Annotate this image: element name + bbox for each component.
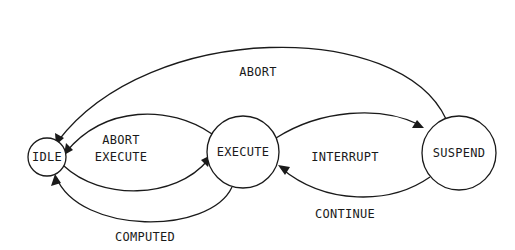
edge-execute-mid bbox=[64, 160, 208, 191]
state-suspend-label: SUSPEND bbox=[433, 146, 486, 160]
label-execute-mid: EXECUTE bbox=[95, 150, 148, 164]
state-execute: EXECUTE bbox=[207, 116, 279, 188]
state-idle: IDLE bbox=[28, 138, 66, 176]
edge-continue bbox=[281, 168, 430, 197]
state-diagram: IDLE EXECUTE SUSPEND ABORT ABORT EXECUTE… bbox=[0, 0, 515, 250]
state-idle-label: IDLE bbox=[32, 150, 62, 164]
label-interrupt: INTERRUPT bbox=[311, 150, 379, 164]
label-continue: CONTINUE bbox=[315, 207, 375, 221]
state-suspend: SUSPEND bbox=[422, 116, 496, 190]
edge-computed bbox=[56, 177, 232, 222]
label-abort-top: ABORT bbox=[239, 65, 277, 79]
label-abort-mid: ABORT bbox=[102, 133, 140, 147]
transition-continue bbox=[278, 165, 430, 197]
arrowhead-icon bbox=[412, 120, 424, 128]
transition-interrupt bbox=[276, 113, 424, 138]
state-execute-label: EXECUTE bbox=[217, 145, 270, 159]
edge-interrupt bbox=[276, 113, 420, 138]
transition-computed bbox=[51, 174, 232, 222]
label-computed: COMPUTED bbox=[115, 230, 175, 244]
